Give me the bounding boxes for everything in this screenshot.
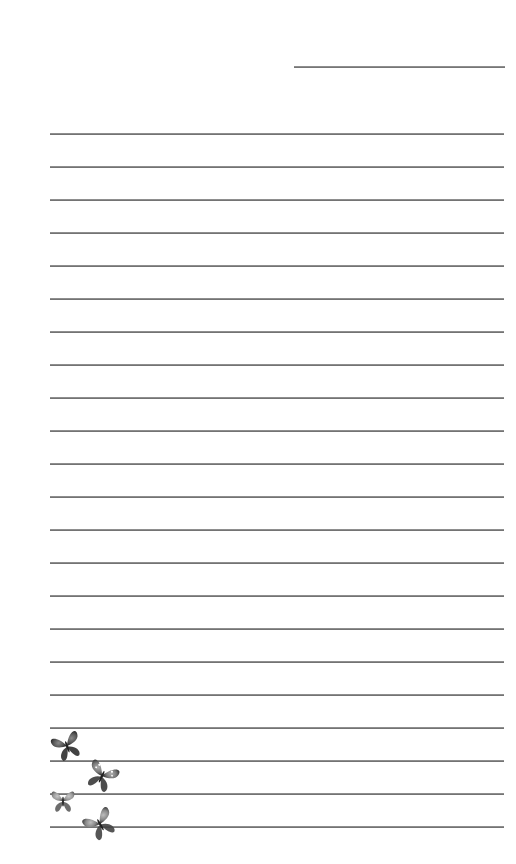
ruled-lines (0, 0, 516, 864)
ruled-line[interactable] (50, 562, 504, 564)
ruled-line[interactable] (50, 331, 504, 333)
ruled-line[interactable] (50, 232, 504, 234)
ruled-line[interactable] (50, 199, 504, 201)
ruled-line[interactable] (50, 298, 504, 300)
ruled-line[interactable] (50, 661, 504, 663)
ruled-line[interactable] (50, 793, 504, 795)
ruled-line[interactable] (50, 496, 504, 498)
ruled-line[interactable] (50, 595, 504, 597)
ruled-line[interactable] (50, 430, 504, 432)
ruled-line[interactable] (50, 463, 504, 465)
ruled-line[interactable] (50, 133, 504, 135)
ruled-line[interactable] (50, 265, 504, 267)
ruled-line[interactable] (50, 826, 504, 828)
ruled-line[interactable] (50, 529, 504, 531)
ruled-line[interactable] (50, 628, 504, 630)
ruled-line[interactable] (50, 727, 504, 729)
ruled-line[interactable] (50, 760, 504, 762)
ruled-line[interactable] (50, 694, 504, 696)
ruled-line[interactable] (50, 397, 504, 399)
ruled-line[interactable] (50, 166, 504, 168)
ruled-line[interactable] (50, 364, 504, 366)
